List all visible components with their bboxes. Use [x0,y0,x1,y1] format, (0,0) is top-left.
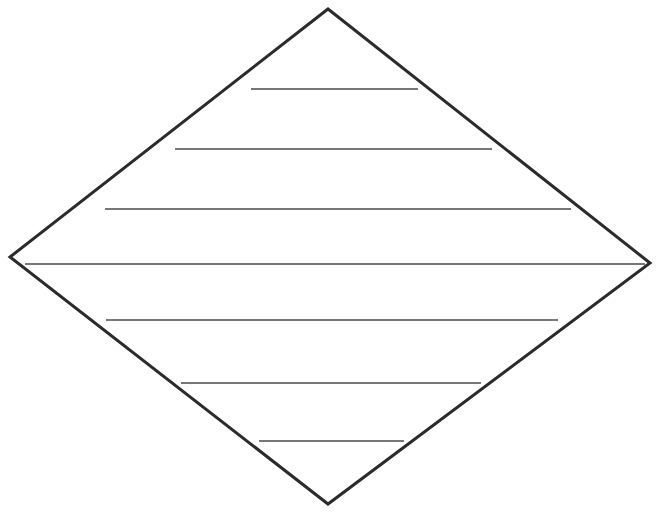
diamond-outline-shape[interactable] [10,9,650,504]
diagram-canvas [0,0,657,516]
diamond-diagram [0,0,657,516]
